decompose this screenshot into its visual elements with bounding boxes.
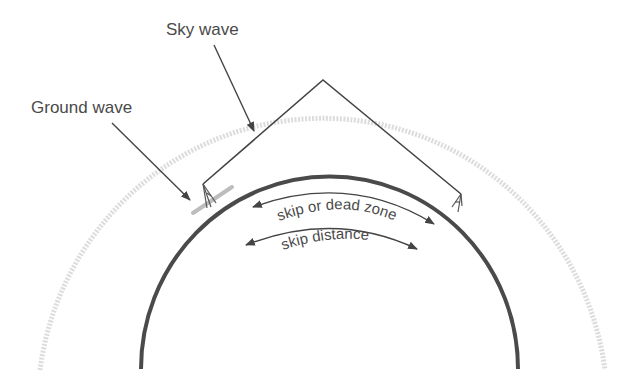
- ground-wave-label: Ground wave: [31, 98, 132, 117]
- propagation-diagram: Sky wave Ground wave skip or dead zone s…: [0, 0, 630, 390]
- ground-wave-pointer: [112, 123, 190, 200]
- receiver-antenna-icon: [452, 194, 462, 212]
- ionosphere-layer: [40, 118, 605, 370]
- sky-wave-label: Sky wave: [166, 20, 239, 39]
- skip-distance-label: skip distance: [279, 225, 370, 253]
- sky-wave-pointer: [214, 45, 254, 131]
